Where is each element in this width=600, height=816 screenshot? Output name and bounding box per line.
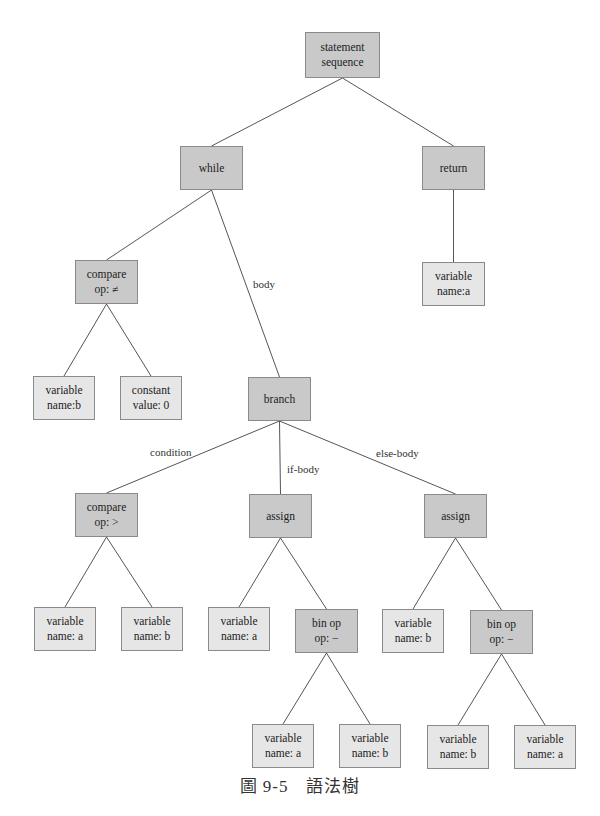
node-label: statement: [320, 40, 364, 55]
node-label: name: b: [352, 746, 389, 761]
tree-node-return: return: [422, 146, 485, 190]
node-label: op: −: [489, 632, 513, 647]
node-label: variable: [46, 614, 83, 629]
node-label: name: a: [527, 747, 563, 762]
edge-branch-assign1: [280, 421, 281, 494]
edge-cmp1-var_b: [64, 304, 107, 376]
tree-node-cmp2: compareop: >: [75, 493, 138, 537]
node-label: variable: [435, 269, 472, 284]
edge-while-cmp1: [107, 190, 212, 260]
edge-cmp2-c2_a: [65, 537, 107, 607]
tree-node-as2_b: variablename: b: [382, 609, 444, 653]
node-label: assign: [441, 509, 470, 524]
tree-node-c2_b: variablename: b: [121, 607, 183, 651]
node-label: variable: [439, 732, 476, 747]
edge-cmp2-c2_b: [107, 537, 153, 607]
tree-node-c2_a: variablename: a: [34, 607, 96, 651]
node-label: value: 0: [133, 398, 170, 413]
node-label: bin op: [487, 617, 516, 632]
edge-assign1-binop1: [281, 538, 327, 609]
edge-root-while: [212, 78, 343, 146]
tree-node-b1_b: variablename: b: [339, 724, 401, 768]
node-label: op: ≠: [95, 282, 119, 297]
tree-node-as1_a: variablename: a: [208, 607, 270, 651]
node-label: branch: [264, 392, 295, 407]
tree-node-b2_b: variablename: b: [427, 725, 489, 769]
edge-binop1-b1_a: [283, 653, 327, 724]
edge-assign2-as2_b: [413, 538, 456, 609]
figure-caption: 圖 9-5 語法樹: [0, 772, 600, 797]
edge-assign1-as1_a: [239, 538, 281, 607]
node-label: sequence: [321, 55, 363, 70]
node-label: return: [440, 161, 467, 176]
tree-node-binop2: bin opop: −: [470, 610, 533, 654]
node-label: bin op: [312, 616, 341, 631]
node-label: variable: [133, 614, 170, 629]
edge-label-else-body: else-body: [376, 447, 419, 459]
node-label: variable: [264, 731, 301, 746]
edge-label-body: body: [253, 278, 275, 290]
node-label: variable: [220, 614, 257, 629]
node-label: op: >: [94, 515, 118, 530]
edge-assign2-binop2: [456, 538, 502, 610]
node-label: name: a: [221, 629, 257, 644]
tree-node-const0: constantvalue: 0: [120, 376, 182, 420]
tree-node-branch: branch: [248, 377, 311, 421]
node-label: name: b: [440, 747, 477, 762]
node-label: compare: [87, 500, 127, 515]
node-label: assign: [266, 509, 295, 524]
edge-binop2-b2_b: [458, 654, 502, 725]
node-label: constant: [132, 383, 170, 398]
tree-node-var_b: variablename:b: [33, 376, 95, 420]
edge-branch-assign2: [280, 421, 456, 494]
node-label: name: a: [47, 629, 83, 644]
tree-node-assign1: assign: [249, 494, 312, 538]
tree-node-binop1: bin opop: −: [295, 609, 358, 653]
node-label: op: −: [314, 631, 338, 646]
node-label: variable: [394, 616, 431, 631]
node-label: variable: [45, 383, 82, 398]
tree-node-while: while: [180, 146, 243, 190]
edge-cmp1-const0: [107, 304, 152, 376]
edge-binop1-b1_b: [327, 653, 371, 724]
edge-binop2-b2_a: [502, 654, 546, 725]
node-label: name:b: [47, 398, 81, 413]
node-label: name:a: [437, 284, 470, 299]
tree-node-b2_a: variablename: a: [514, 725, 576, 769]
node-label: name: b: [395, 631, 432, 646]
tree-node-cmp1: compareop: ≠: [75, 260, 138, 304]
edge-label-if-body: if-body: [287, 463, 319, 475]
tree-node-ret_a: variablename:a: [422, 262, 485, 306]
tree-node-root: statementsequence: [305, 32, 380, 78]
node-label: name: b: [134, 629, 171, 644]
edge-root-return: [343, 78, 454, 146]
node-label: name: a: [265, 746, 301, 761]
edge-branch-cmp2: [107, 421, 280, 493]
tree-node-b1_a: variablename: a: [252, 724, 314, 768]
edge-label-condition: condition: [150, 446, 192, 458]
node-label: compare: [87, 267, 127, 282]
syntax-tree-diagram: statementsequencewhilereturncompareop: ≠…: [0, 0, 600, 816]
tree-node-assign2: assign: [424, 494, 487, 538]
node-label: variable: [526, 732, 563, 747]
node-label: variable: [351, 731, 388, 746]
node-label: while: [199, 161, 225, 176]
